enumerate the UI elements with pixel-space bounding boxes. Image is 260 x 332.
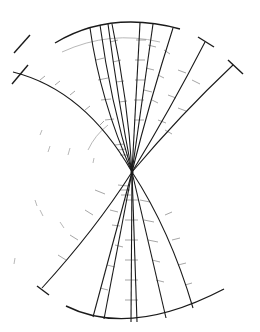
track-t1 [13, 72, 132, 172]
interaction-vertex [130, 170, 133, 173]
tick-mark [172, 238, 180, 240]
tick-mark [40, 76, 45, 80]
track-end-cap [12, 65, 28, 84]
tick-mark [115, 245, 123, 247]
vertex-point [130, 170, 133, 173]
tick-mark [148, 45, 156, 47]
tick-mark [96, 58, 104, 60]
tick-mark [85, 106, 90, 110]
tick-mark [178, 108, 186, 111]
track-t9 [132, 42, 205, 172]
faint-arcs [14, 38, 160, 264]
track-t6 [132, 23, 140, 172]
tick-mark [192, 80, 200, 84]
tick-mark [152, 100, 158, 103]
tick-mark [144, 220, 154, 222]
faint-arc [68, 148, 70, 155]
track-b5 [132, 172, 137, 322]
tick-mark [58, 255, 66, 260]
tick-mark [85, 210, 93, 215]
faint-arc [48, 146, 50, 152]
track-t10 [132, 65, 233, 172]
tick-mark [113, 60, 121, 62]
faint-arc [60, 222, 64, 228]
faint-arc [40, 210, 43, 216]
tick-mark [55, 81, 60, 85]
faint-arc [14, 258, 15, 264]
tick-mark [70, 91, 75, 95]
tick-mark [178, 70, 186, 73]
track-ticks [40, 40, 200, 300]
track-b1 [42, 172, 132, 288]
tick-mark [95, 190, 105, 194]
track-b2 [93, 172, 132, 317]
track-b4 [131, 172, 132, 322]
faint-arc [93, 158, 94, 163]
tick-mark [115, 144, 124, 145]
tick-mark [165, 212, 172, 215]
tick-mark [144, 90, 152, 92]
event-display [0, 0, 260, 332]
track-b6 [132, 172, 166, 318]
bottom-arc [66, 289, 224, 319]
left-upper-arc [14, 35, 30, 53]
tick-mark [70, 235, 78, 240]
track-t7 [132, 24, 153, 172]
tick-mark [148, 240, 158, 242]
track-diagram [0, 0, 260, 332]
track-end-cap [198, 37, 214, 47]
tick-mark [105, 119, 114, 120]
faint-arc [40, 130, 42, 135]
tick-mark [100, 121, 104, 125]
track-b7 [132, 172, 193, 308]
faint-arc [88, 125, 108, 150]
tick-mark [112, 225, 120, 226]
faint-arc [35, 200, 37, 206]
tick-mark [110, 210, 118, 212]
tick-mark [110, 40, 118, 42]
particle-tracks [12, 23, 243, 322]
tick-mark [178, 263, 186, 265]
